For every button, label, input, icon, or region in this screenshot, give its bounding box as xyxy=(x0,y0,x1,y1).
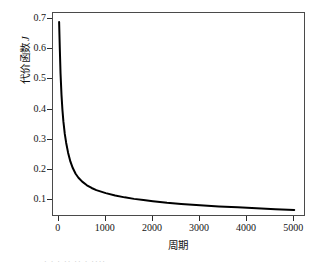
x-tick-mark xyxy=(152,216,153,221)
y-tick-label: 0.2 xyxy=(20,164,46,174)
y-tick-mark xyxy=(47,78,52,79)
x-tick-mark xyxy=(293,216,294,221)
y-tick-label: 0.5 xyxy=(20,73,46,83)
x-tick-mark xyxy=(58,216,59,221)
plot-area xyxy=(52,12,305,216)
curve-svg xyxy=(53,13,306,217)
y-tick-mark xyxy=(47,139,52,140)
cropped-caption-strip: · · · ·· ·· · ···· xyxy=(44,257,302,264)
x-tick-label: 4000 xyxy=(221,222,271,234)
x-tick-mark xyxy=(199,216,200,221)
x-tick-label: 1000 xyxy=(80,222,130,234)
cost-curve xyxy=(59,22,294,210)
y-tick-label: 0.6 xyxy=(20,43,46,53)
y-tick-label: 0.7 xyxy=(20,13,46,23)
x-axis-title: 周期 xyxy=(52,239,305,252)
y-tick-label: 0.3 xyxy=(20,134,46,144)
x-tick-label: 2000 xyxy=(127,222,177,234)
y-tick-mark xyxy=(47,18,52,19)
y-tick-mark xyxy=(47,199,52,200)
x-tick-label: 5000 xyxy=(268,222,318,234)
y-tick-mark xyxy=(47,48,52,49)
cost-function-chart: 代价函数J 0.10.20.30.40.50.60.7 010002000300… xyxy=(0,0,321,265)
y-tick-mark xyxy=(47,109,52,110)
y-tick-mark xyxy=(47,169,52,170)
y-tick-label: 0.1 xyxy=(20,194,46,204)
x-axis-tick-labels: 010002000300040005000 xyxy=(0,222,321,236)
x-tick-label: 3000 xyxy=(174,222,224,234)
x-tick-mark xyxy=(105,216,106,221)
x-tick-label: 0 xyxy=(33,222,83,234)
y-tick-label: 0.4 xyxy=(20,104,46,114)
x-tick-mark xyxy=(246,216,247,221)
